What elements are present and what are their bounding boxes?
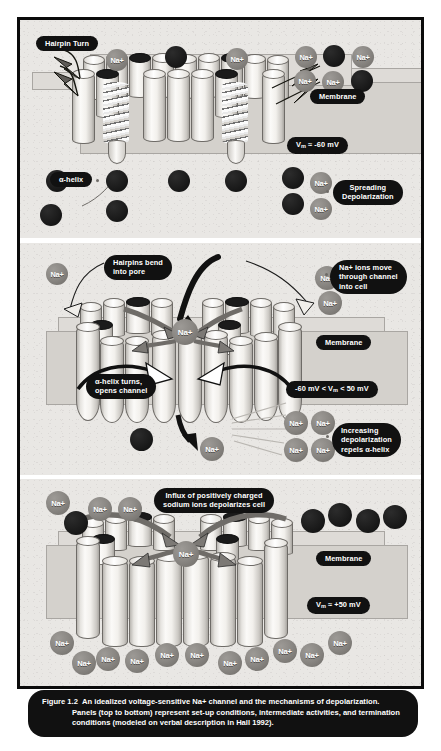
dark-ion: [40, 204, 62, 226]
panel-termination-conditions: Na+ Na+ Na+ Na+ Na+ Na+ Na+ Na+ Na+ Na+ …: [20, 479, 421, 686]
voltage-suffix: ≈ -60 mV: [306, 140, 339, 149]
sodium-ion: Na+: [125, 649, 149, 673]
leader-dot: [325, 273, 328, 276]
channel-subunit-cylinder: [264, 541, 288, 639]
voltage-suffix: < 50 mV: [338, 384, 369, 393]
dark-ion: [165, 46, 187, 68]
dark-ion: [356, 509, 380, 533]
dark-ion: [383, 505, 407, 529]
sodium-ion: Na+: [226, 48, 248, 70]
sodium-ion: Na+: [284, 438, 308, 462]
sodium-ion: Na+: [50, 631, 74, 655]
figure-caption: Figure 1.2 An idealized voltage-sensitiv…: [28, 690, 418, 737]
leader-dot: [326, 190, 329, 193]
label-ions-move: Na+ ions move through channel into cell: [330, 260, 407, 294]
sodium-ion: Na+: [295, 46, 317, 68]
sodium-ion: Na+: [46, 491, 70, 515]
sodium-ion: Na+: [106, 49, 128, 71]
dark-ion: [282, 193, 304, 215]
caption-title: An idealized voltage-sensitive Na+ chann…: [82, 697, 379, 706]
channel-subunit-cylinder: [143, 72, 166, 142]
label-influx: Influx of positively charged sodium ions…: [154, 488, 274, 513]
label-alpha-helix-turns: α-helix turns, opens channel: [86, 374, 156, 399]
dark-ion: [64, 511, 88, 535]
label-hairpin-turn: Hairpin Turn: [36, 36, 98, 51]
channel-subunit-cylinder: [210, 555, 236, 647]
channel-subunit-cylinder: [72, 72, 95, 144]
sodium-ion: Na+: [300, 643, 324, 667]
sodium-ion: Na+: [310, 198, 332, 220]
sodium-ion-in-pore: Na+: [172, 319, 198, 345]
dark-ion: [168, 170, 190, 192]
channel-subunit-cylinder: [178, 331, 202, 423]
dark-ion: [225, 170, 247, 192]
alpha-helix-tip: [108, 140, 126, 164]
channel-subunit-cylinder-dark: [126, 300, 150, 334]
label-membrane-voltage: Vm ≈ -60 mV: [287, 137, 348, 154]
sodium-ion: Na+: [88, 497, 112, 521]
sodium-ion-in-pore: Na+: [173, 541, 199, 567]
caption-body: Panels (top to bottom) represent set-up …: [42, 708, 404, 729]
channel-subunit-cylinder: [254, 335, 278, 421]
dark-ion: [106, 200, 128, 222]
panel-set-up-conditions: Na+ Na+ Na+ Na+ Na+ Na+ Na+ Na+ Hairpin …: [20, 20, 421, 238]
label-membrane-voltage: -60 mV < Vm < 50 mV: [286, 381, 378, 398]
alpha-helix-coil: [222, 82, 248, 144]
alpha-helix-coil: [103, 82, 129, 144]
channel-subunit-cylinder: [152, 333, 176, 423]
label-membrane: Membrane: [316, 551, 371, 566]
dark-ion: [323, 45, 345, 67]
leader-dot: [326, 435, 329, 438]
channel-subunit-cylinder: [278, 325, 302, 421]
channel-subunit-cylinder: [183, 553, 209, 647]
sodium-ion: Na+: [273, 639, 297, 663]
dark-ion: [130, 428, 153, 451]
label-alpha-helix: α-helix: [50, 172, 92, 187]
channel-subunit-cylinder: [167, 72, 190, 142]
channel-subunit-cylinder: [76, 539, 100, 639]
sodium-ion: Na+: [185, 643, 209, 667]
channel-subunit-cylinder: [262, 72, 285, 144]
sodium-ion: Na+: [294, 70, 316, 92]
channel-subunit-cylinder: [129, 559, 155, 647]
channel-subunit-cylinder: [204, 333, 228, 423]
channel-subunit-cylinder: [76, 325, 100, 421]
sodium-ion: Na+: [200, 437, 224, 461]
sodium-ion: Na+: [311, 411, 335, 435]
dark-ion: [301, 509, 325, 533]
channel-subunit-cylinder: [102, 559, 128, 647]
voltage-suffix: ≈ +50 mV: [326, 600, 361, 609]
sodium-ion: Na+: [328, 631, 352, 655]
sodium-ion: Na+: [118, 497, 142, 521]
sodium-ion: Na+: [352, 46, 374, 68]
dark-ion: [106, 170, 128, 192]
channel-subunit-cylinder: [237, 559, 263, 647]
channel-subunit-cylinder: [191, 72, 214, 142]
sodium-ion: Na+: [245, 647, 269, 671]
caption-figure-number: Figure 1.2: [42, 697, 78, 706]
figure-container: Na+ Na+ Na+ Na+ Na+ Na+ Na+ Na+ Hairpin …: [0, 0, 441, 751]
label-spreading-depolarization: Spreading Depolarization: [333, 180, 403, 205]
label-membrane-voltage: Vm ≈ +50 mV: [307, 597, 370, 614]
sodium-ion: Na+: [72, 651, 96, 675]
sodium-ion: Na+: [46, 263, 68, 285]
channel-subunit-cylinder: [156, 555, 182, 647]
label-membrane: Membrane: [310, 89, 365, 104]
sodium-ion: Na+: [155, 643, 179, 667]
sodium-ion: Na+: [284, 411, 308, 435]
leader-dot: [96, 179, 99, 182]
dark-ion: [282, 167, 304, 189]
alpha-helix-tip: [227, 140, 245, 164]
label-increasing-depolarization: Increasing depolarization repels α-helix: [332, 423, 401, 457]
label-membrane: Membrane: [316, 335, 371, 350]
channel-subunit-cylinder: [229, 339, 253, 423]
channel-subunit-cylinder: [153, 517, 175, 551]
voltage-prefix: -60 mV < V: [295, 384, 333, 393]
dark-ion: [328, 503, 352, 527]
panel-intermediate-activities: Na+ Na+ Na+ Na+ Na+ Na+ Na+ Na+ Na+ Hair…: [20, 243, 421, 475]
label-hairpins-bend: Hairpins bend into pore: [104, 255, 172, 280]
sodium-ion: Na+: [318, 291, 342, 315]
sodium-ion: Na+: [96, 647, 120, 671]
sodium-ion: Na+: [218, 651, 242, 675]
